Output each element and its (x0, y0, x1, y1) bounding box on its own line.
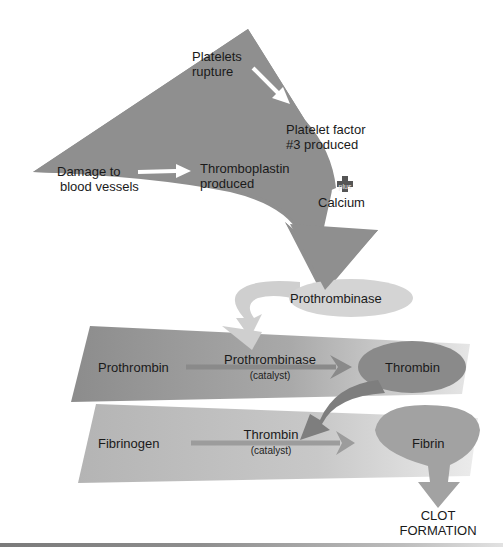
label-catalyst-note-2: (catalyst) (231, 445, 311, 457)
label-line: Damage to (57, 164, 139, 179)
label-line: rupture (192, 64, 242, 79)
label-platelets-rupture: Platelets rupture (192, 49, 242, 79)
plus-label: plus (336, 183, 354, 191)
label-line: Platelets (192, 49, 242, 64)
label-thromboplastin: Thromboplastin produced (200, 161, 290, 191)
label-fibrin: Fibrin (412, 436, 445, 451)
label-line: #3 produced (286, 137, 366, 152)
label-line: blood vessels (57, 179, 139, 194)
label-fibrinogen: Fibrinogen (98, 436, 159, 451)
label-catalyst-thrombin: Thrombin (231, 427, 311, 442)
label-catalyst-prothrombinase: Prothrombinase (215, 352, 325, 367)
label-line: Thromboplastin (200, 161, 290, 176)
label-line: Platelet factor (286, 122, 366, 137)
label-catalyst-note-1: (catalyst) (215, 370, 325, 382)
label-damage: Damage to blood vessels (57, 164, 139, 194)
label-platelet-factor: Platelet factor #3 produced (286, 122, 366, 152)
label-clot-formation: CLOT FORMATION (398, 508, 478, 538)
bottom-divider (0, 543, 503, 547)
label-calcium: Calcium (318, 195, 365, 210)
label-line: FORMATION (398, 523, 478, 538)
label-thrombin: Thrombin (385, 360, 440, 375)
label-prothrombin: Prothrombin (98, 360, 169, 375)
label-line: CLOT (398, 508, 478, 523)
label-line: produced (200, 176, 290, 191)
clotting-cascade-diagram (0, 0, 503, 557)
label-prothrombinase: Prothrombinase (290, 291, 382, 306)
